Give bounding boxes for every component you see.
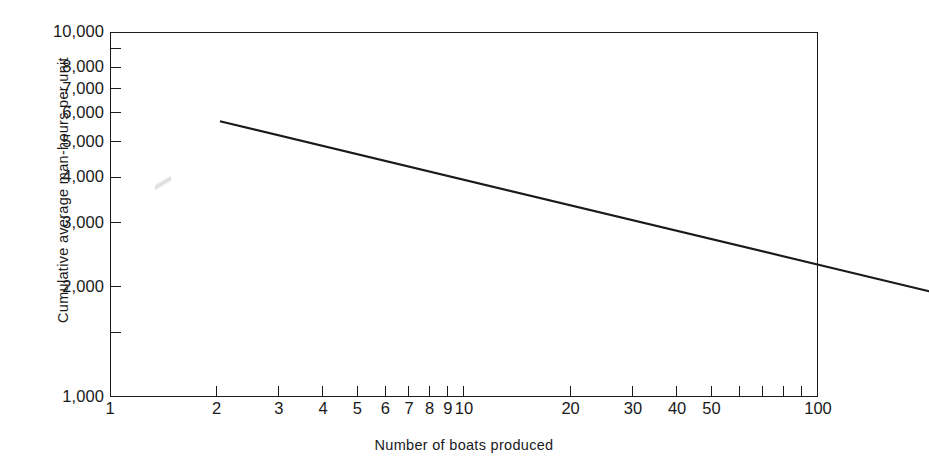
x-axis-tick [632, 386, 633, 397]
data-series-svg [221, 65, 929, 430]
x-axis-tick-label: 40 [668, 399, 686, 418]
y-axis-tick [110, 67, 121, 68]
y-axis-tick-label: 5,000 [0, 132, 104, 151]
x-axis-tick-label: 8 [425, 399, 434, 418]
x-axis-tick-label: 50 [702, 399, 720, 418]
y-axis-tick [110, 222, 121, 223]
x-axis-tick [216, 386, 217, 397]
x-axis-tick-label: 100 [804, 399, 832, 418]
x-axis-tick [385, 386, 386, 397]
y-axis-tick-label: 1,000 [0, 387, 104, 406]
x-axis-title: Number of boats produced [110, 437, 818, 453]
data-line-cumulative-average [221, 122, 929, 292]
x-axis-tick [783, 386, 784, 397]
y-axis-tick [110, 141, 121, 142]
y-axis-tick [110, 286, 121, 287]
x-axis-tick [429, 386, 430, 397]
y-axis-tick [110, 88, 121, 89]
x-axis-tick-label: 20 [561, 399, 579, 418]
x-axis-tick [711, 386, 712, 397]
x-axis-tick-label: 2 [212, 399, 221, 418]
x-axis-tick [739, 386, 740, 397]
x-axis-tick-label: 10 [455, 399, 473, 418]
x-axis-tick-label: 5 [353, 399, 362, 418]
x-axis-tick [447, 386, 448, 397]
y-axis-tick [110, 48, 121, 49]
x-axis-tick-label: 30 [624, 399, 642, 418]
x-axis-tick [357, 386, 358, 397]
x-axis-tick [463, 386, 464, 397]
x-axis-tick [322, 386, 323, 397]
x-axis-tick-label: 7 [405, 399, 414, 418]
plot-area [110, 32, 818, 397]
x-axis-tick [570, 386, 571, 397]
x-axis-tick-label: 9 [443, 399, 452, 418]
x-axis-tick-label: 6 [381, 399, 390, 418]
y-axis-tick [110, 177, 121, 178]
x-axis-tick [278, 386, 279, 397]
y-axis-tick-label: 8,000 [0, 57, 104, 76]
y-axis-tick-label: 3,000 [0, 213, 104, 232]
y-axis-tick-label: 7,000 [0, 79, 104, 98]
y-axis-tick-label: 2,000 [0, 277, 104, 296]
x-axis-tick-label: 4 [319, 399, 328, 418]
x-axis-tick-label: 3 [274, 399, 283, 418]
y-axis-tick [110, 332, 121, 333]
y-axis-tick-label: 6,000 [0, 103, 104, 122]
y-axis-tick-label: 4,000 [0, 167, 104, 186]
y-axis-tick [110, 112, 121, 113]
x-axis-tick [676, 386, 677, 397]
x-axis-tick [762, 386, 763, 397]
y-axis-tick-label: 10,000 [0, 22, 104, 41]
x-axis-tick [408, 386, 409, 397]
x-axis-tick-label: 1 [105, 399, 114, 418]
x-axis-tick [801, 386, 802, 397]
